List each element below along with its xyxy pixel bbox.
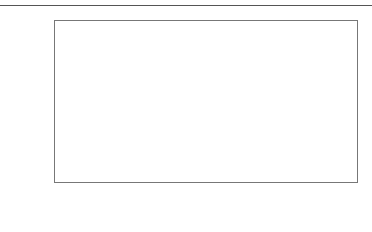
plot-area — [54, 20, 358, 183]
top-divider — [0, 5, 372, 6]
